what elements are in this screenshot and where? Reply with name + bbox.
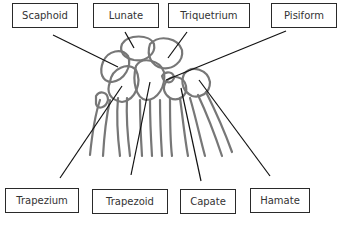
label-capate: Capate [180,189,236,214]
label-hamate: Hamate [250,188,310,213]
label-trapezoid: Trapezoid [92,189,168,214]
label-trapezoid-text: Trapezoid [106,196,154,207]
label-lunate-text: Lunate [109,10,143,21]
label-hamate-text: Hamate [260,195,300,206]
label-pisiform-text: Pisiform [284,10,324,21]
label-scaphoid: Scaphoid [12,3,78,28]
label-trapezium-text: Trapezium [16,195,67,206]
label-capate-text: Capate [190,196,226,207]
label-lunate: Lunate [93,3,159,28]
label-pisiform: Pisiform [271,3,337,28]
label-triquetrium-text: Triquetrium [180,10,237,21]
label-trapezium: Trapezium [5,188,79,213]
label-triquetrium: Triquetrium [168,3,250,28]
label-scaphoid-text: Scaphoid [22,10,68,21]
